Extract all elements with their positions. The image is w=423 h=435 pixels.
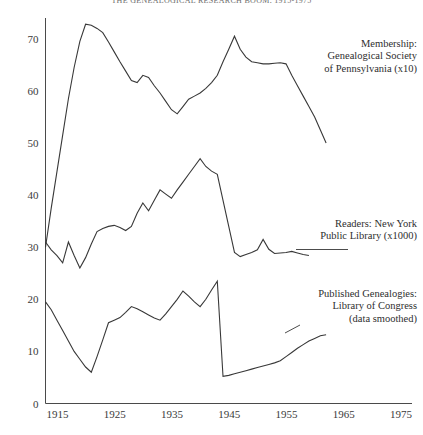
x-tick-label: 1955 [276, 408, 299, 420]
y-tick-label: 20 [28, 293, 40, 305]
series-line-1 [46, 159, 309, 268]
annotation-membership-line-3: of Pennsylvania (x10) [324, 63, 417, 75]
x-tick-label: 1915 [47, 408, 70, 420]
annotation-genealogies: Published Genealogies: Library of Congre… [318, 288, 417, 325]
x-axis-tick-labels: 1915192519351945195519651975 [47, 408, 413, 420]
x-tick-label: 1925 [104, 408, 127, 420]
y-tick-label: 50 [28, 137, 40, 149]
annotation-readers-line-1: Readers: New York [320, 218, 417, 230]
x-tick-label: 1945 [218, 408, 241, 420]
annotation-readers: Readers: New York Public Library (x1000) [320, 218, 417, 243]
annotation-membership: Membership: Genealogical Society of Penn… [324, 38, 417, 75]
annotation-readers-line-2: Public Library (x1000) [320, 230, 417, 242]
y-tick-label: 40 [28, 189, 40, 201]
annotation-genealogies-line-3: (data smoothed) [318, 313, 417, 325]
y-tick-label: 70 [28, 33, 40, 45]
y-tick-label: 30 [28, 241, 40, 253]
annotation-genealogies-line-2: Library of Congress [318, 300, 417, 312]
y-tick-label: 10 [28, 345, 40, 357]
x-tick-label: 1935 [161, 408, 184, 420]
y-tick-label: 0 [33, 398, 39, 410]
annotation-membership-line-2: Genealogical Society [324, 50, 417, 62]
annotation-membership-line-1: Membership: [324, 38, 417, 50]
figure-container: THE GENEALOGICAL RESEARCH BOOM, 1915-197… [0, 0, 423, 435]
leader-line-genealogies [285, 325, 300, 333]
y-tick-label: 60 [28, 85, 40, 97]
y-axis-tick-labels: 010203040506070 [28, 33, 40, 410]
series-line-2 [46, 281, 327, 376]
x-tick-label: 1965 [333, 408, 356, 420]
x-tick-label: 1975 [390, 408, 413, 420]
series-line-0 [46, 24, 327, 247]
annotation-genealogies-line-1: Published Genealogies: [318, 288, 417, 300]
data-series-group [46, 24, 327, 376]
